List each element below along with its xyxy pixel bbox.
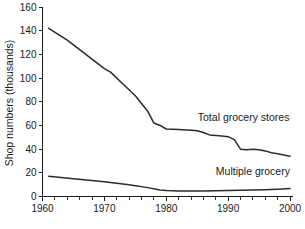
y-tick-label-80: 80	[25, 96, 37, 107]
x-tick-label-1980: 1980	[155, 203, 178, 214]
x-tick-label-1960: 1960	[31, 203, 54, 214]
y-axis-title: Shop numbers (thousands)	[3, 40, 15, 167]
x-axis-tick-labels: 19601970198019902000	[31, 203, 301, 214]
x-tick-label-2000: 2000	[279, 203, 302, 214]
x-tick-label-1990: 1990	[217, 203, 240, 214]
y-tick-label-0: 0	[31, 191, 37, 202]
series-inline-labels: Total grocery storesMultiple grocery	[198, 111, 291, 177]
chart-canvas: 020406080100120140160 196019701980199020…	[0, 0, 305, 229]
y-tick-label-60: 60	[25, 120, 37, 131]
y-tick-label-20: 20	[25, 167, 37, 178]
x-axis-group: 19601970198019902000	[31, 197, 301, 214]
series-label-multiple-grocery: Multiple grocery	[216, 165, 291, 177]
line-chart: 020406080100120140160 196019701980199020…	[0, 0, 305, 229]
series-line-multiple-grocery	[49, 176, 290, 191]
x-tick-label-1970: 1970	[93, 203, 116, 214]
y-tick-label-40: 40	[25, 144, 37, 155]
y-tick-label-140: 140	[20, 25, 37, 36]
y-tick-label-100: 100	[20, 73, 37, 84]
y-tick-label-160: 160	[20, 2, 37, 13]
y-tick-label-120: 120	[20, 49, 37, 60]
y-axis-tick-labels: 020406080100120140160	[20, 2, 37, 203]
series-line-total-grocery-stores	[49, 28, 290, 156]
series-label-total-grocery-stores: Total grocery stores	[198, 111, 290, 123]
y-axis-group: 020406080100120140160	[20, 2, 43, 203]
